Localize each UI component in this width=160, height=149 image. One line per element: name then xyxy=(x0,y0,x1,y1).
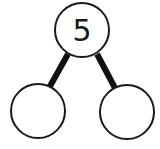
whole-circle: 5 xyxy=(55,3,109,57)
connector-right xyxy=(97,54,115,88)
whole-value: 5 xyxy=(72,13,91,48)
part-circle-left xyxy=(11,84,65,138)
number-bond-diagram: 5 xyxy=(0,0,160,149)
part-circle-right xyxy=(100,85,154,139)
connector-left xyxy=(49,54,68,88)
